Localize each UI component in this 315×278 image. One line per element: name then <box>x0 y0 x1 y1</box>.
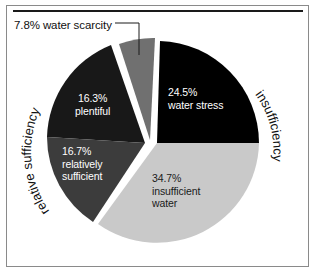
slice-label-insufficient-water: 34.7% insufficient water <box>152 172 200 210</box>
slice-label-plentiful: 16.3% plentiful <box>75 92 110 117</box>
slice-name-water-stress: water stress <box>168 99 223 112</box>
slice-name-relatively-sufficient-line2: sufficient <box>62 170 102 183</box>
slice-label-relatively-sufficient: 16.7% relatively sufficient <box>62 145 102 183</box>
slice-value-insufficient-water: 34.7% <box>152 172 200 185</box>
pie-svg: insufficiency relative sufficiency <box>0 0 315 278</box>
pie-chart-figure: insufficiency relative sufficiency 7.8% … <box>0 0 315 278</box>
group-label-left-textpath: relative sufficiency <box>19 105 52 218</box>
slice-value-water-stress: 24.5% <box>168 86 223 99</box>
slice-name-plentiful: plentiful <box>75 105 110 118</box>
group-label-relative-sufficiency-curved: relative sufficiency <box>19 105 52 218</box>
slice-name-relatively-sufficient-line1: relatively <box>62 158 102 171</box>
slice-value-plentiful: 16.3% <box>75 92 110 105</box>
slice-name-insufficient-water-line1: insufficient <box>152 185 200 198</box>
slice-label-water-stress: 24.5% water stress <box>168 86 223 111</box>
slice-name-insufficient-water-line2: water <box>152 197 200 210</box>
chart-area: insufficiency relative sufficiency 7.8% … <box>0 0 315 278</box>
callout-label-water-scarcity: 7.8% water scarcity <box>14 19 112 31</box>
slice-value-relatively-sufficient: 16.7% <box>62 145 102 158</box>
